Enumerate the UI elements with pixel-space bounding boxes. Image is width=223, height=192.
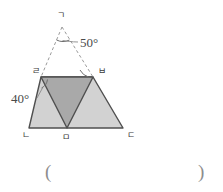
- vertex-label-bottom-mid: ㅁ: [62, 132, 70, 142]
- vertex-label-bottom-left: ㄴ: [22, 130, 30, 140]
- angle-arc-mid-right: [80, 70, 89, 77]
- answer-close-paren: ): [198, 161, 204, 183]
- vertex-label-mid-left: ㄹ: [32, 66, 40, 76]
- angle-label-mid-left: 40°: [11, 91, 29, 106]
- vertex-label-apex: ㄱ: [57, 10, 65, 20]
- geometry-canvas: ㄱ ㄴ ㄷ ㄹ ㅁ ㅂ 50° 40° ( ): [0, 0, 223, 192]
- dashed-line-left: [41, 27, 62, 77]
- vertex-label-bottom-right: ㄷ: [127, 130, 135, 140]
- angle-label-apex: 50°: [80, 35, 98, 50]
- vertex-label-mid-right: ㅂ: [98, 66, 106, 76]
- geometry-figure: ㄱ ㄴ ㄷ ㄹ ㅁ ㅂ 50° 40° ( ): [0, 0, 223, 192]
- answer-open-paren: (: [45, 161, 51, 183]
